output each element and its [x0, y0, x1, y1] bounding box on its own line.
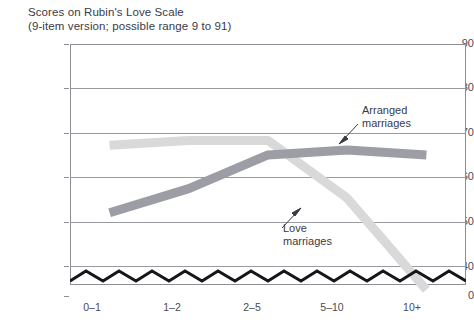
- arrow-head-arranged: [339, 136, 348, 144]
- annotation-arranged-marriages: Arranged marriages: [362, 104, 411, 130]
- annotation-love-marriages: Love marriages: [283, 222, 332, 248]
- axis-break-zigzag-icon: [70, 264, 466, 290]
- x-tick-label-10-plus: 10+: [382, 302, 442, 313]
- x-tick-label-2-5: 2–5: [222, 302, 282, 313]
- annotation-arranged-line1: Arranged: [362, 104, 411, 117]
- annotation-love-line1: Love: [283, 222, 332, 235]
- annotation-love-line2: marriages: [283, 235, 332, 248]
- arrow-head-love: [292, 208, 301, 216]
- x-tick-label-1-2: 1–2: [142, 302, 202, 313]
- chart-container: Scores on Rubin's Love Scale (9-item ver…: [0, 0, 474, 325]
- x-tick-label-5-10: 5–10: [302, 302, 362, 313]
- annotation-arranged-line2: marriages: [362, 117, 411, 130]
- x-tick-label-0-1: 0–1: [62, 302, 122, 313]
